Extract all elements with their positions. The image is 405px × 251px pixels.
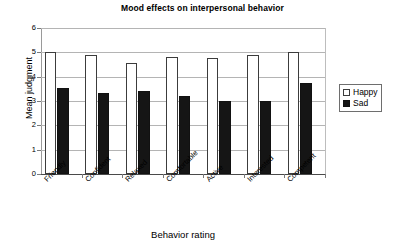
bar-happy-relaxed	[126, 63, 138, 174]
legend-item-happy[interactable]: Happy	[343, 87, 378, 98]
chart-container: Mood effects on interpersonal behavior 0…	[0, 0, 405, 251]
y-tick-0	[37, 174, 41, 175]
chart-title: Mood effects on interpersonal behavior	[0, 3, 405, 13]
bar-happy-comfortable	[166, 57, 178, 174]
bar-happy-active	[207, 58, 219, 174]
bars-layer	[41, 28, 325, 174]
bar-happy-competent	[288, 52, 300, 174]
bar-happy-confident	[85, 55, 97, 174]
x-axis-title: Behavior rating	[41, 229, 325, 240]
legend-label-happy: Happy	[353, 88, 378, 97]
x-tick-7	[325, 174, 326, 178]
y-tick-label-0: 0	[6, 170, 36, 178]
legend-swatch-sad-icon	[343, 100, 350, 107]
plot-right-edge	[325, 28, 326, 174]
legend-item-sad[interactable]: Sad	[343, 98, 378, 109]
legend-label-sad: Sad	[353, 99, 368, 108]
bar-sad-active	[219, 101, 231, 174]
chart-legend: Happy Sad	[339, 84, 382, 112]
bar-happy-interested	[247, 55, 259, 174]
y-axis-title: Mean judgment	[24, 13, 34, 163]
legend-swatch-happy-icon	[343, 89, 350, 96]
bar-happy-friendly	[45, 52, 57, 174]
